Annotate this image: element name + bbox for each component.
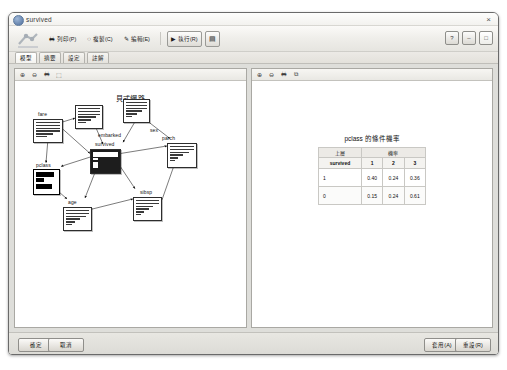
- node-bars: [66, 210, 89, 228]
- cpt-row-key: 0: [319, 187, 362, 205]
- run-button[interactable]: ▶ 執行(R): [167, 31, 202, 47]
- graph-node-sibsp[interactable]: [133, 197, 162, 221]
- node-bars: [136, 200, 159, 218]
- application-logo: [16, 30, 40, 50]
- graph-node-survived[interactable]: [90, 149, 121, 174]
- node-bars: [170, 146, 194, 165]
- graph-node-label-pclass: pclass: [36, 162, 51, 168]
- zoom-out-icon[interactable]: ⊖: [267, 70, 276, 79]
- cpt-row-key: 1: [319, 169, 362, 187]
- probability-canvas[interactable]: pclass 的條件機率 上層 機率 survived 1 2 3: [252, 81, 492, 327]
- edit-button[interactable]: ✎ 編輯(E): [120, 31, 154, 47]
- node-bars: [126, 102, 147, 120]
- cpt-group-probability: 機率: [361, 148, 425, 158]
- edit-button-label: 編輯(E): [131, 35, 150, 43]
- cpt-group-header-row: 上層 機率: [319, 148, 426, 158]
- print-button[interactable]: 🖶 列印(P): [45, 31, 80, 47]
- run-button-label: 執行(R): [178, 35, 198, 43]
- cpt-container: pclass 的條件機率 上層 機率 survived 1 2 3: [252, 81, 492, 327]
- tab-annotation[interactable]: 註解: [87, 52, 109, 63]
- window-title: survived: [26, 14, 52, 25]
- cpt-cell: 0.24: [383, 169, 404, 187]
- graph-node-label-age: age: [68, 199, 77, 205]
- copy-button-label: 複製(C): [93, 35, 113, 43]
- application-window: survived × 🖶 列印(P) ◌ 複製(C) ✎ 編輯(E): [8, 12, 499, 355]
- node-bars: [93, 152, 118, 171]
- cpt-title: pclass 的條件機率: [252, 133, 492, 143]
- cpt-body: 1 0.40 0.24 0.36 0 0.15 0.24 0.61: [319, 169, 426, 205]
- print-icon[interactable]: 🖶: [42, 70, 51, 79]
- graph-node-fare[interactable]: [33, 119, 63, 143]
- cancel-button[interactable]: 取消: [48, 338, 84, 352]
- toolbar-button-group: 🖶 列印(P) ◌ 複製(C) ✎ 編輯(E) ▶ 執行(R) ▤: [45, 31, 220, 46]
- conditional-probability-table: 上層 機率 survived 1 2 3: [318, 147, 426, 205]
- graph-node-sex[interactable]: [123, 99, 150, 123]
- node-bars: [36, 172, 57, 192]
- app-icon: [13, 15, 24, 26]
- cpt-col-3: 3: [404, 158, 425, 169]
- graph-node-label-parch: parch: [162, 135, 175, 141]
- node-bars: [36, 122, 60, 140]
- pencil-icon: ✎: [124, 36, 129, 42]
- cpt-cell: 0.40: [361, 169, 382, 187]
- graph-node-label-embarked: embarked: [98, 132, 121, 138]
- tab-settings[interactable]: 設定: [63, 52, 85, 63]
- cpt-group-parent: 上層: [319, 148, 362, 158]
- tab-summary[interactable]: 摘要: [39, 52, 61, 63]
- graph-node-age[interactable]: [63, 207, 92, 231]
- select-icon[interactable]: ⬚: [54, 70, 63, 79]
- cpt-cell: 0.61: [404, 187, 425, 205]
- probability-pane: ⊕ ⊖ 🖶 ⧉ pclass 的條件機率 上層 機率: [251, 68, 493, 328]
- cpt-cell: 0.15: [361, 187, 382, 205]
- node-bars: [78, 108, 100, 126]
- play-icon: ▶: [171, 36, 176, 42]
- tab-model[interactable]: 模型: [15, 52, 37, 63]
- dialog-button-bar: 確定 取消 套用(A) 重設(R): [9, 332, 498, 354]
- cpt-head: 上層 機率 survived 1 2 3: [319, 148, 426, 169]
- graph-node-pclass[interactable]: [33, 169, 60, 195]
- maximize-button[interactable]: □: [479, 31, 493, 45]
- close-icon[interactable]: ×: [484, 15, 493, 24]
- content-area: ⊕ ⊖ 🖶 ⬚ 貝式網路: [9, 64, 498, 354]
- window-controls: ? – □: [445, 31, 493, 45]
- copy-icon[interactable]: ⧉: [291, 70, 300, 79]
- copy-icon: ◌: [87, 36, 91, 42]
- toolbar: 🖶 列印(P) ◌ 複製(C) ✎ 編輯(E) ▶ 執行(R) ▤ ? – □: [9, 26, 498, 52]
- graph-node-label-sex: sex: [150, 127, 158, 133]
- save-button[interactable]: ▤: [205, 31, 220, 47]
- probability-pane-toolbar: ⊕ ⊖ 🖶 ⧉: [252, 69, 492, 81]
- print-icon[interactable]: 🖶: [279, 70, 288, 79]
- graph-node-label-sibsp: sibsp: [140, 189, 152, 195]
- toolbar-separator: [160, 32, 161, 45]
- network-pane: ⊕ ⊖ 🖶 ⬚ 貝式網路: [14, 68, 247, 328]
- title-bar: survived ×: [9, 13, 498, 26]
- zoom-in-icon[interactable]: ⊕: [18, 70, 27, 79]
- zoom-out-icon[interactable]: ⊖: [30, 70, 39, 79]
- table-row[interactable]: 0 0.15 0.24 0.61: [319, 187, 426, 205]
- network-pane-toolbar: ⊕ ⊖ 🖶 ⬚: [15, 69, 246, 81]
- printer-icon: 🖶: [49, 36, 55, 42]
- tab-strip: 模型 摘要 設定 註解: [9, 52, 498, 64]
- table-row[interactable]: 1 0.40 0.24 0.36: [319, 169, 426, 187]
- minimize-button[interactable]: –: [462, 31, 476, 45]
- cpt-col-survived: survived: [319, 158, 362, 169]
- graph-node-label-survived: survived: [95, 141, 114, 147]
- reset-button[interactable]: 重設(R): [455, 338, 491, 352]
- cpt-column-header-row: survived 1 2 3: [319, 158, 426, 169]
- cpt-cell: 0.36: [404, 169, 425, 187]
- cpt-col-2: 2: [383, 158, 404, 169]
- graph-node-parch[interactable]: [167, 143, 197, 168]
- cpt-cell: 0.24: [383, 187, 404, 205]
- help-button[interactable]: ?: [445, 31, 459, 45]
- graph-node-label-fare: fare: [38, 111, 47, 117]
- print-button-label: 列印(P): [57, 35, 76, 43]
- zoom-in-icon[interactable]: ⊕: [255, 70, 264, 79]
- cpt-col-1: 1: [361, 158, 382, 169]
- network-canvas[interactable]: 貝式網路: [15, 81, 246, 327]
- graph-node-embarked[interactable]: [75, 105, 103, 129]
- copy-button[interactable]: ◌ 複製(C): [83, 31, 116, 47]
